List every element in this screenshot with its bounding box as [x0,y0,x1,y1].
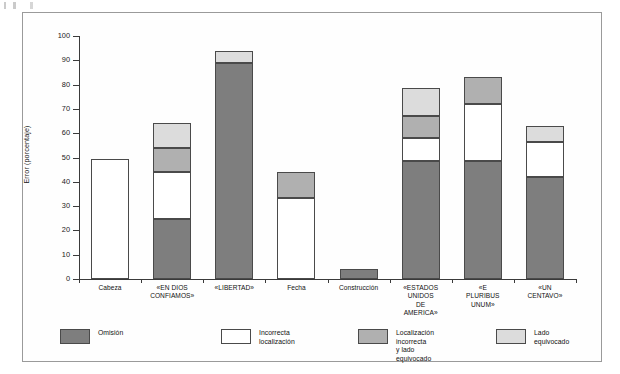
y-axis-tick [73,230,79,231]
y-axis-tick [73,182,79,183]
x-axis-tick [576,279,577,283]
legend-swatch [60,329,90,344]
y-axis-tick-label: 90 [46,56,70,63]
y-axis-tick-label: 80 [46,81,70,88]
bar[interactable] [526,126,564,279]
y-axis-tick-label: 40 [46,178,70,185]
bar-segment[interactable] [215,63,253,279]
bar-segment[interactable] [402,88,440,116]
y-axis-tick [73,60,79,61]
bar[interactable] [215,51,253,279]
bar-segment[interactable] [153,219,191,279]
bar-segment[interactable] [277,172,315,198]
x-axis-category-label: «EN DIOS CONFIAMOS» [141,284,203,301]
legend-swatch [358,329,388,344]
y-axis-tick-label: 30 [46,202,70,209]
y-axis-line [79,36,80,279]
legend-label: Lado equivocado [534,329,569,346]
legend-label: Omisión [98,329,123,338]
legend-label: Incorrecta localización [259,329,295,346]
y-axis-tick-label: 70 [46,105,70,112]
y-axis-tick [73,36,79,37]
bar-segment[interactable] [464,77,502,104]
bar[interactable] [91,159,129,279]
bar-segment[interactable] [153,123,191,147]
y-axis-tick [73,85,79,86]
bar[interactable] [402,88,440,279]
bar-segment[interactable] [340,269,378,279]
bar[interactable] [340,269,378,279]
x-axis-tick [452,279,453,283]
bar[interactable] [153,123,191,279]
bar[interactable] [277,172,315,279]
y-axis-title: Error (porcentaje) [22,100,31,210]
legend-swatch [221,329,251,344]
x-axis-tick [328,279,329,283]
x-axis-tick [79,279,80,283]
bar-segment[interactable] [153,148,191,172]
x-axis-category-label: «ESTADOS UNIDOS DE AMERICA» [390,284,452,318]
x-axis-tick [265,279,266,283]
y-axis-tick-label: 60 [46,129,70,136]
y-axis-tick-label: 50 [46,154,70,161]
bar-segment[interactable] [215,51,253,63]
bar-segment[interactable] [526,126,564,142]
bar-segment[interactable] [464,161,502,279]
x-axis-tick [390,279,391,283]
bar-segment[interactable] [402,161,440,279]
y-axis-tick [73,133,79,134]
stacked-bar-chart: Error (porcentaje) 010203040506070809010… [0,0,620,374]
legend-swatch [496,329,526,344]
y-axis-tick [73,206,79,207]
bar-segment[interactable] [402,138,440,161]
x-axis-tick [514,279,515,283]
bar-segment[interactable] [277,198,315,279]
x-axis-category-label: «UN CENTAVO» [514,284,576,301]
y-axis-tick-label: 20 [46,226,70,233]
x-axis-tick [203,279,204,283]
x-axis-category-label: «LIBERTAD» [203,284,265,292]
bar-segment[interactable] [526,142,564,177]
bar-segment[interactable] [402,116,440,138]
y-axis-tick [73,109,79,110]
bar-segment[interactable] [464,104,502,161]
x-axis-category-label: «E PLURIBUS UNUM» [452,284,514,309]
y-axis-tick-label: 10 [46,251,70,258]
bar-segment[interactable] [153,172,191,219]
y-axis-tick [73,255,79,256]
bar[interactable] [464,77,502,279]
legend-label: Localización incorrecta y lado equivocad… [396,329,434,363]
bar-segment[interactable] [91,159,129,279]
x-axis-category-label: Construcción [328,284,390,292]
bar-segment[interactable] [526,177,564,279]
y-axis-tick [73,158,79,159]
x-axis-category-label: Cabeza [79,284,141,292]
y-axis-tick-label: 100 [46,32,70,39]
x-axis-category-label: Fecha [265,284,327,292]
y-axis-tick-label: 0 [46,275,70,282]
x-axis-tick [141,279,142,283]
